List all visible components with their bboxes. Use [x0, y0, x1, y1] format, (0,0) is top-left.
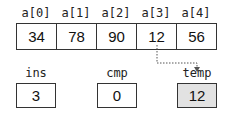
temp-box: 12: [177, 83, 217, 108]
ins-box: 3: [16, 83, 56, 108]
temp-label: temp: [177, 66, 217, 80]
cmp-label: cmp: [97, 66, 137, 80]
ins-label: ins: [16, 66, 56, 80]
cmp-box: 0: [97, 83, 137, 108]
